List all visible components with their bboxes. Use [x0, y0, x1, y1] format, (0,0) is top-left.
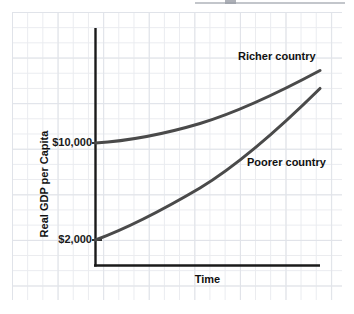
chart-screenshot: $10,000 $2,000 Real GDP per Capita Time … [0, 0, 354, 314]
y-tick-label-10000: $10,000 [52, 136, 92, 148]
x-axis-title: Time [95, 273, 320, 285]
curve-richer-country [96, 71, 321, 144]
series-label-richer-country: Richer country [238, 50, 316, 62]
y-axis-title: Real GDP per Capita [38, 99, 50, 269]
series-label-poorer-country: Poorer country [247, 156, 326, 168]
y-tick-label-2000: $2,000 [58, 233, 92, 245]
